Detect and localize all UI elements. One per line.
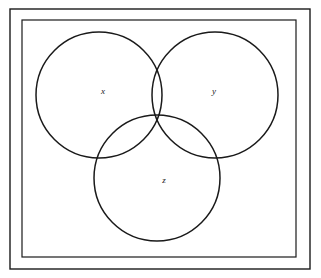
set-circle-x [36,32,162,158]
set-label-y: y [211,86,216,96]
set-label-x: x [100,86,105,96]
set-label-z: z [161,175,166,185]
outer-frame-border [10,9,310,269]
venn-diagram-figure: x y z [0,0,321,278]
venn-diagram-canvas: x y z [0,0,321,278]
inner-frame-border [22,20,296,257]
set-circle-z [94,115,220,241]
